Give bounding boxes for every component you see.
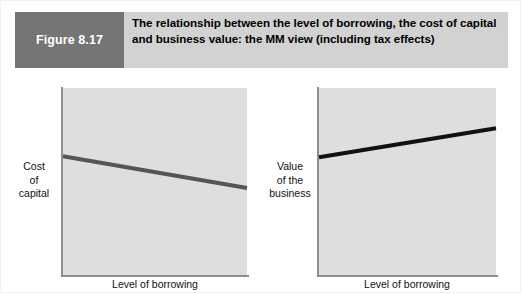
- figure-container: Figure 8.17 The relationship between the…: [0, 0, 522, 294]
- chart-value-of-business: Value of the business Level of borrowing: [0, 0, 522, 294]
- y-axis-label-value-of-business: Value of the business: [263, 160, 317, 201]
- trend-line-value-of-business: [0, 0, 522, 294]
- x-axis-label-value-of-business: Level of borrowing: [347, 278, 467, 290]
